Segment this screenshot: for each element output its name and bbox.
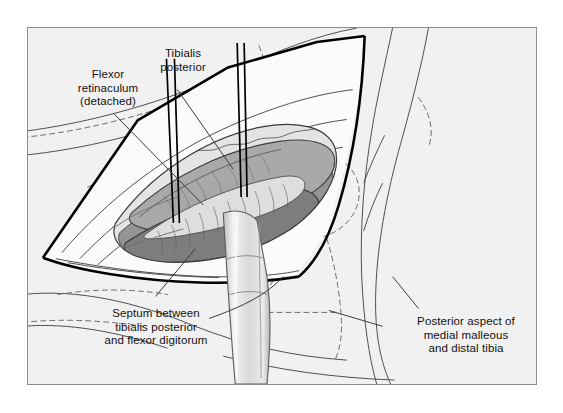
leader-posterior-up (393, 277, 419, 309)
label-posterior-aspect: Posterior aspect of medial malleous and … (391, 315, 537, 356)
illustration-panel: Flexor retinaculum (detached) Tibialis p… (27, 27, 537, 385)
anatomy-figure: Flexor retinaculum (detached) Tibialis p… (0, 0, 563, 413)
label-flexor-retinaculum: Flexor retinaculum (detached) (53, 68, 163, 109)
label-tibialis-posterior: Tibialis posterior (138, 47, 228, 74)
label-septum: Septum between tibialis posterior and fl… (76, 307, 236, 348)
leader-posterior-left (329, 310, 383, 326)
